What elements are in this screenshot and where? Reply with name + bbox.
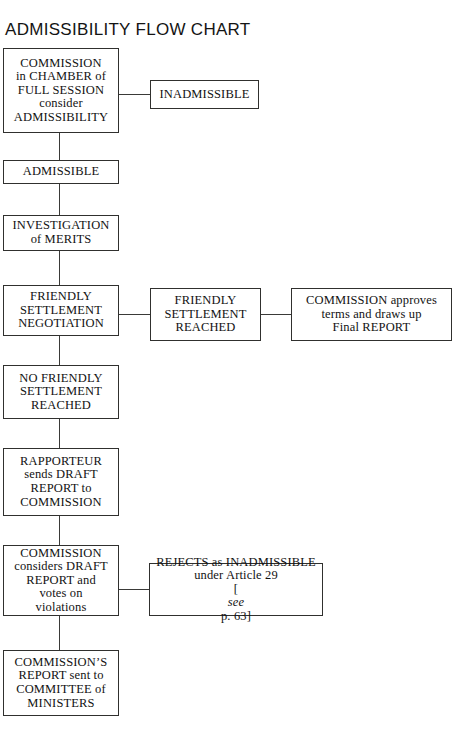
node-line: NO FRIENDLY — [6, 372, 116, 386]
bracket-open: [ — [152, 583, 320, 597]
node-line: RAPPORTEUR — [6, 455, 116, 469]
node-line-citation: [see p. 63] — [152, 583, 320, 624]
node-line: of MERITS — [6, 233, 116, 247]
node-friendly-settlement-negotiation[interactable]: FRIENDLY SETTLEMENT NEGOTIATION — [3, 285, 119, 336]
node-line: SETTLEMENT — [6, 385, 116, 399]
node-line: INVESTIGATION — [6, 219, 116, 233]
node-line: INADMISSIBLE — [153, 88, 256, 102]
node-line: terms and draws up — [294, 308, 449, 322]
node-line: COMMISSION — [6, 496, 116, 510]
node-line: FRIENDLY — [153, 294, 258, 308]
citation-see: see — [152, 596, 320, 610]
node-line: SETTLEMENT — [153, 308, 258, 322]
node-line: Final REPORT — [294, 321, 449, 335]
node-line: COMMISSION’S — [6, 656, 116, 670]
connector-rapporteur-to-considers — [59, 515, 60, 545]
node-line: COMMISSION approves — [294, 294, 449, 308]
node-commission-report-sent[interactable]: COMMISSION’S REPORT sent to COMMITTEE of… — [3, 650, 119, 716]
node-line: considers DRAFT — [6, 560, 116, 574]
connector-reached-to-approves — [260, 314, 292, 315]
node-line: FULL SESSION — [6, 84, 116, 98]
node-line: REPORT to — [6, 482, 116, 496]
node-line: under Article 29 — [152, 569, 320, 583]
citation-page: p. 63] — [152, 610, 320, 624]
node-line: REACHED — [6, 399, 116, 413]
flowchart-page: ADMISSIBILITY FLOW CHART COMMISSION in C… — [0, 0, 473, 740]
node-friendly-settlement-reached[interactable]: FRIENDLY SETTLEMENT REACHED — [150, 288, 261, 341]
connector-commission-to-admissible — [59, 133, 60, 160]
connector-considers-to-report-sent — [59, 615, 60, 650]
connector-commission-to-inadmissible — [118, 94, 150, 95]
node-line: REJECTS as INADMISSIBLE — [152, 556, 320, 570]
node-commission-approves[interactable]: COMMISSION approves terms and draws up F… — [291, 288, 452, 341]
node-line: violations — [6, 601, 116, 615]
node-commission-considers-draft[interactable]: COMMISSION considers DRAFT REPORT and vo… — [3, 545, 119, 616]
connector-negotiation-to-reached — [118, 314, 150, 315]
connector-negotiation-to-no-settlement — [59, 335, 60, 365]
connector-considers-to-rejects — [118, 589, 149, 590]
node-line: FRIENDLY — [6, 290, 116, 304]
node-line: COMMISSION — [6, 57, 116, 71]
node-line: consider — [6, 97, 116, 111]
node-line: MINISTERS — [6, 697, 116, 711]
node-line: COMMITTEE of — [6, 683, 116, 697]
node-line: ADMISSIBILITY — [6, 111, 116, 125]
connector-investigation-to-negotiation — [59, 250, 60, 285]
page-title: ADMISSIBILITY FLOW CHART — [5, 20, 251, 40]
node-rapporteur[interactable]: RAPPORTEUR sends DRAFT REPORT to COMMISS… — [3, 448, 119, 516]
node-line: ADMISSIBLE — [6, 165, 116, 179]
node-line: in CHAMBER of — [6, 70, 116, 84]
node-line: sends DRAFT — [6, 468, 116, 482]
connector-admissible-to-investigation — [59, 183, 60, 215]
node-line: REACHED — [153, 321, 258, 335]
node-line: NEGOTIATION — [6, 317, 116, 331]
node-line: SETTLEMENT — [6, 304, 116, 318]
node-line: REPORT sent to — [6, 669, 116, 683]
node-line: REPORT and — [6, 574, 116, 588]
connector-no-settlement-to-rapporteur — [59, 418, 60, 448]
node-no-friendly-settlement-reached[interactable]: NO FRIENDLY SETTLEMENT REACHED — [3, 365, 119, 419]
node-admissible[interactable]: ADMISSIBLE — [3, 160, 119, 184]
node-commission-chamber[interactable]: COMMISSION in CHAMBER of FULL SESSION co… — [3, 48, 119, 133]
node-inadmissible[interactable]: INADMISSIBLE — [150, 80, 259, 109]
node-investigation-merits[interactable]: INVESTIGATION of MERITS — [3, 215, 119, 251]
node-rejects-inadmissible[interactable]: REJECTS as INADMISSIBLE under Article 29… — [149, 563, 323, 616]
node-line: votes on — [6, 587, 116, 601]
node-line: COMMISSION — [6, 547, 116, 561]
